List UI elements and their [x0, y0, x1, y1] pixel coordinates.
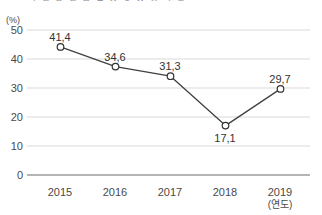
data-label-2017: 31,3 — [150, 61, 190, 72]
data-label-2019: 29,7 — [260, 74, 300, 85]
y-tick-label-10: 10 — [1, 141, 23, 152]
data-label-2015: 41,4 — [40, 32, 80, 43]
data-label-2018: 17,1 — [205, 133, 245, 144]
x-tick-label-2016: 2016 — [88, 186, 142, 199]
data-label-2016: 34,6 — [95, 52, 135, 63]
gridlines — [27, 30, 310, 146]
data-point-2016 — [112, 63, 119, 70]
data-point-2019 — [277, 86, 284, 93]
data-point-2017 — [167, 73, 174, 80]
y-tick-label-0: 0 — [1, 170, 23, 181]
y-tick-label-50: 50 — [1, 25, 23, 36]
series-markers — [57, 44, 284, 129]
data-point-2018 — [222, 122, 229, 129]
x-tick-label-2017: 2017 — [143, 186, 197, 199]
y-tick-label-30: 30 — [1, 83, 23, 94]
x-tick-label-2018: 2018 — [198, 186, 252, 199]
y-tick-label-20: 20 — [1, 112, 23, 123]
x-tick-label-2015: 2015 — [33, 186, 87, 199]
data-point-2015 — [57, 44, 64, 51]
y-tick-label-40: 40 — [1, 54, 23, 65]
x-axis-title: (연도) — [253, 199, 307, 211]
x-tick-label-2019: 2019 — [253, 186, 307, 199]
line-chart-figure: (%) 50 40 30 20 10 0 41,4 34,6 31,3 17,1… — [0, 0, 322, 215]
